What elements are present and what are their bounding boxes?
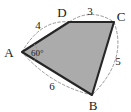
side-label-BA: 6 — [49, 80, 55, 92]
vertex-label-A: A — [4, 45, 14, 60]
angle-label-A: 60° — [31, 48, 44, 58]
figure-canvas: A D C B 4 3 5 6 60° — [0, 0, 131, 112]
side-label-CB: 5 — [115, 55, 121, 67]
vertex-label-C: C — [117, 9, 126, 24]
vertex-label-D: D — [57, 5, 66, 20]
geometry-figure: A D C B 4 3 5 6 60° — [0, 0, 131, 112]
quadrilateral-shape — [22, 22, 114, 95]
vertex-label-B: B — [89, 98, 98, 112]
side-label-AD: 4 — [35, 19, 41, 31]
side-label-DC: 3 — [87, 5, 93, 17]
